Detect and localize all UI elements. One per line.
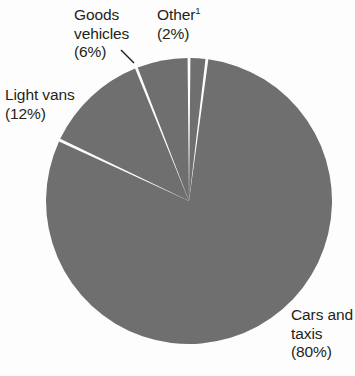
slice-label-light-vans: Light vans (12%) bbox=[5, 86, 75, 123]
slice-label-goods-vehicles-line1: Goods bbox=[74, 6, 129, 25]
slice-label-cars-and-taxis-line1: Cars and bbox=[291, 306, 353, 325]
pie-chart-figure: Goods vehicles (6%) Other1 (2%) Light va… bbox=[0, 0, 355, 376]
footnote-marker-other: 1 bbox=[195, 5, 200, 16]
pie-slice-group bbox=[46, 58, 332, 344]
slice-label-cars-and-taxis-line2: taxis bbox=[291, 325, 353, 344]
slice-label-goods-vehicles: Goods vehicles (6%) bbox=[74, 6, 129, 62]
slice-label-cars-and-taxis: Cars and taxis (80%) bbox=[291, 306, 353, 362]
slice-label-goods-vehicles-value: (6%) bbox=[74, 43, 129, 62]
slice-label-light-vans-line1: Light vans bbox=[5, 86, 75, 105]
slice-label-other-text: Other bbox=[157, 6, 195, 23]
slice-label-goods-vehicles-line2: vehicles bbox=[74, 25, 129, 44]
slice-label-other-value: (2%) bbox=[157, 25, 200, 44]
slice-label-other: Other1 (2%) bbox=[157, 6, 200, 43]
slice-label-other-line1: Other1 bbox=[157, 6, 200, 25]
slice-label-light-vans-value: (12%) bbox=[5, 105, 75, 124]
slice-label-cars-and-taxis-value: (80%) bbox=[291, 343, 353, 362]
